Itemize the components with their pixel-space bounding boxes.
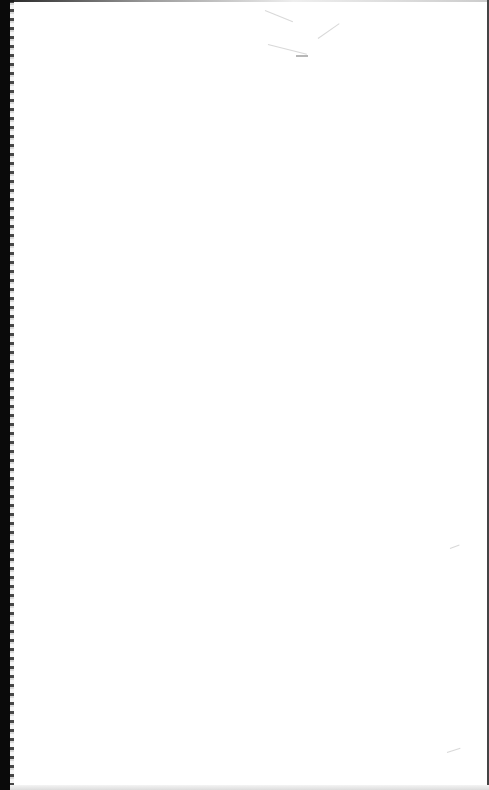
left-dark-scan-edge [0, 0, 10, 790]
scanned-page [0, 0, 489, 790]
top-scan-edge [0, 0, 489, 2]
blank-paper-sheet [12, 2, 487, 785]
bottom-scan-edge [10, 785, 489, 790]
faint-smudge [296, 55, 308, 57]
